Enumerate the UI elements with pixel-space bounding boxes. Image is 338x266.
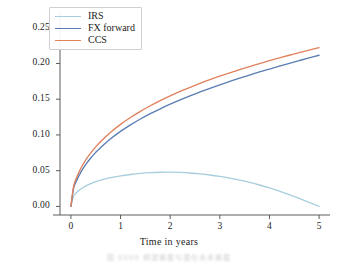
chart-series-group [71,48,319,207]
legend-swatch-icon [55,28,81,29]
y-tick-label: 0.10 [18,129,50,139]
legend-item-fx-forward[interactable]: FX forward [55,22,135,34]
legend-label: FX forward [88,22,135,34]
x-axis-label: Time in years [0,236,338,247]
x-tick-label: 1 [111,221,131,231]
series-line-ccs [71,48,319,207]
x-tick-marks [71,215,319,219]
x-tick-label: 3 [210,221,230,231]
legend-swatch-icon [55,40,81,41]
series-line-irs [71,172,319,206]
y-tick-label: 0.15 [18,93,50,103]
series-line-fx-forward [71,55,319,206]
x-tick-label: 0 [61,221,81,231]
y-tick-label: 0.20 [18,57,50,67]
legend-item-irs[interactable]: IRS [55,10,135,22]
legend-label: CCS [88,34,107,46]
legend-label: IRS [88,10,104,22]
chart-legend: IRSFX forwardCCS [49,7,142,50]
x-tick-label: 4 [259,221,279,231]
y-tick-marks [56,28,60,207]
y-tick-label: 0.25 [18,22,50,32]
legend-item-ccs[interactable]: CCS [55,34,135,46]
y-tick-label: 0.05 [18,165,50,175]
figure-container: 0.000.050.100.150.200.25 012345 PFE Time… [0,0,338,266]
y-tick-label: 0.00 [18,200,50,210]
legend-swatch-icon [55,16,81,17]
x-tick-label: 5 [309,221,329,231]
figure-caption: 图 0000 期望暴露与潜在未来暴露 [0,252,338,262]
x-tick-label: 2 [160,221,180,231]
